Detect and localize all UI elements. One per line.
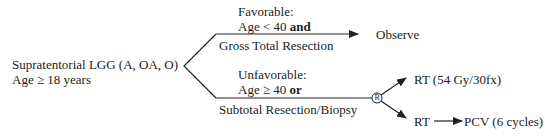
arrow-to-arm2 bbox=[381, 101, 406, 118]
arm2-pcv: PCV (6 cycles) bbox=[464, 114, 543, 129]
unfavorable-criterion: Age ≥ 40 or bbox=[238, 82, 302, 97]
randomize-symbol: R bbox=[375, 92, 380, 104]
arrow-to-arm1 bbox=[381, 78, 406, 95]
favorable-criterion: Age < 40 and bbox=[238, 19, 311, 34]
gross-total-resection-label: Gross Total Resection bbox=[219, 38, 333, 53]
favorable-label: Favorable: bbox=[238, 4, 294, 19]
favorable-age: Age < 40 bbox=[238, 19, 290, 34]
unfavorable-age: Age ≥ 40 bbox=[238, 82, 290, 97]
unfavorable-conj: or bbox=[290, 82, 302, 97]
fork-line bbox=[184, 34, 216, 98]
subtotal-resection-label: Subtotal Resection/Biopsy bbox=[219, 102, 357, 117]
favorable-conj: and bbox=[290, 19, 311, 34]
arm1-rt: RT (54 Gy/30fx) bbox=[414, 72, 501, 87]
observe-outcome: Observe bbox=[376, 27, 419, 42]
unfavorable-label: Unfavorable: bbox=[238, 67, 307, 82]
root-condition: Supratentorial LGG (A, OA, O) bbox=[12, 57, 178, 72]
root-age: Age ≥ 18 years bbox=[12, 72, 91, 87]
arm2-rt: RT bbox=[414, 114, 430, 129]
